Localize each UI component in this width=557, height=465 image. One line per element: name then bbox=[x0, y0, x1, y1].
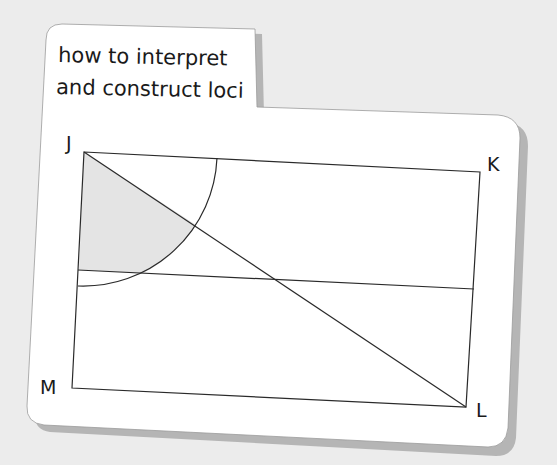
vertex-label-l: L bbox=[476, 399, 487, 421]
card-title-line2: and construct loci bbox=[56, 75, 244, 103]
card-title-line1: how to interpret bbox=[58, 43, 228, 71]
vertex-label-j: J bbox=[65, 132, 72, 154]
vertex-label-k: K bbox=[487, 153, 500, 175]
loci-card: how to interpret and construct loci J K … bbox=[0, 0, 557, 465]
vertex-label-m: M bbox=[40, 376, 56, 398]
